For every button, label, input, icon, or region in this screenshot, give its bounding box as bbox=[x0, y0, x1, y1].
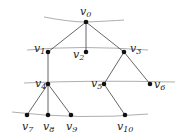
label-v4: v4 bbox=[35, 77, 46, 91]
edge-v4-v9 bbox=[48, 84, 71, 115]
node-v8 bbox=[46, 113, 51, 118]
node-v1 bbox=[46, 50, 51, 55]
edge-v3-v5 bbox=[104, 52, 124, 84]
tree-nodes bbox=[25, 20, 153, 118]
edge-v5-v10 bbox=[104, 84, 125, 115]
label-v7: v7 bbox=[22, 120, 34, 134]
label-v9: v9 bbox=[66, 120, 77, 134]
node-v6 bbox=[148, 82, 153, 87]
node-v4 bbox=[46, 82, 51, 87]
node-v5 bbox=[102, 82, 107, 87]
label-v5: v5 bbox=[91, 77, 102, 91]
label-v1: v1 bbox=[34, 42, 45, 56]
level-line bbox=[12, 112, 148, 117]
node-v10 bbox=[123, 113, 128, 118]
node-v3 bbox=[122, 50, 127, 55]
node-v2 bbox=[84, 50, 89, 55]
node-v0 bbox=[84, 20, 89, 25]
label-v2: v2 bbox=[73, 48, 84, 62]
label-v10: v10 bbox=[117, 120, 133, 134]
label-v0: v0 bbox=[80, 5, 91, 19]
tree-diagram: v0v1v2v3v4v5v6v7v8v9v10 bbox=[0, 0, 182, 138]
node-v7 bbox=[25, 113, 30, 118]
tree-edges bbox=[27, 22, 150, 115]
label-v8: v8 bbox=[43, 120, 54, 134]
edge-v3-v6 bbox=[124, 52, 150, 84]
label-v6: v6 bbox=[154, 78, 165, 92]
label-v3: v3 bbox=[130, 42, 141, 56]
node-v9 bbox=[69, 113, 74, 118]
